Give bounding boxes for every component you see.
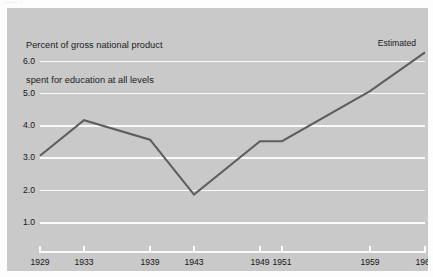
x-tick-label-1959: 1959	[360, 257, 379, 267]
y-tick-label-3.0: 3.0	[23, 153, 35, 162]
x-axis-tick-1959	[369, 246, 371, 253]
plot-area: 6.05.04.03.02.01.0	[40, 46, 425, 243]
x-axis-line	[40, 251, 425, 253]
y-tick-label-6.0: 6.0	[23, 56, 35, 65]
x-tick-label-1929: 1929	[30, 257, 49, 267]
x-axis-tick-1939	[149, 246, 151, 253]
x-axis-tick-1933	[83, 246, 85, 253]
y-tick-label-2.0: 2.0	[23, 185, 35, 194]
x-axis-tick-1964	[424, 246, 426, 253]
x-axis	[40, 243, 425, 253]
x-axis-tick-1949	[259, 246, 261, 253]
x-tick-label-1933: 1933	[74, 257, 93, 267]
series-polyline	[40, 52, 425, 194]
y-tick-label-1.0: 1.0	[23, 218, 35, 227]
x-tick-label-1949: 1949	[250, 257, 269, 267]
y-tick-label-5.0: 5.0	[23, 88, 35, 97]
x-tick-label-1943: 1943	[184, 257, 203, 267]
chart-figure: CHART 1. Percent of gross national produ…	[0, 0, 433, 277]
x-axis-tick-1943	[193, 246, 195, 253]
data-line-series	[40, 46, 425, 243]
x-tick-label-1939: 1939	[140, 257, 159, 267]
chart-panel: Percent of gross national product spent …	[7, 8, 428, 271]
caption-remnant: CHART 1.	[3, 0, 55, 5]
y-tick-label-4.0: 4.0	[23, 121, 35, 130]
x-tick-label-1964: 1964	[415, 257, 428, 267]
x-axis-tick-1929	[39, 246, 41, 253]
x-tick-label-1951: 1951	[272, 257, 291, 267]
x-axis-tick-1951	[281, 246, 283, 253]
